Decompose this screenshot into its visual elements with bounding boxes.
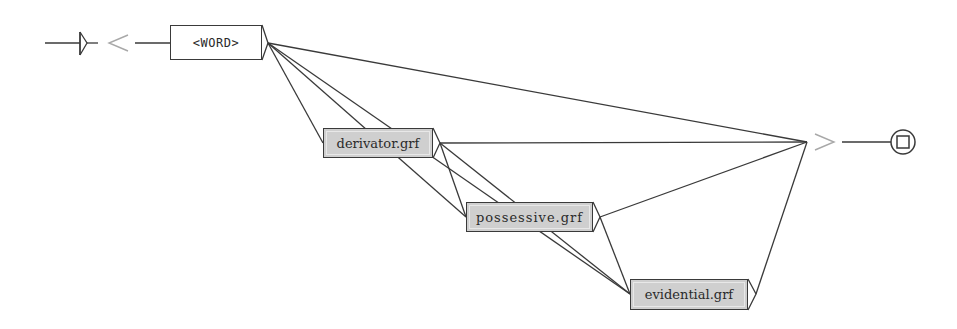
word-output-arrow-icon xyxy=(262,25,268,60)
initial-state-arrow-icon xyxy=(80,32,87,55)
final-state-square-icon xyxy=(897,136,909,148)
context-close-marker-icon xyxy=(815,134,834,150)
possessive-output-arrow-icon xyxy=(593,202,600,232)
node-possessive-label: possessive.grf xyxy=(476,210,583,225)
node-evidential-label: evidential.grf xyxy=(645,287,733,302)
node-word-label: <WORD> xyxy=(193,36,239,50)
edge-evidential-to-final[interactable] xyxy=(756,142,807,294)
final-state-circle-icon xyxy=(891,130,915,154)
edge-derivator-to-final[interactable] xyxy=(440,142,807,143)
node-word[interactable]: <WORD> xyxy=(170,25,262,60)
grammar-graph-canvas xyxy=(0,0,957,329)
evidential-output-arrow-icon xyxy=(748,279,756,310)
node-derivator-label: derivator.grf xyxy=(337,136,420,151)
initial-state[interactable] xyxy=(45,32,98,55)
derivator-output-arrow-icon xyxy=(433,128,440,158)
node-derivator-subgraph[interactable]: derivator.grf xyxy=(323,128,433,158)
node-evidential-subgraph[interactable]: evidential.grf xyxy=(630,279,748,310)
edges xyxy=(268,43,807,294)
final-state[interactable] xyxy=(891,130,915,154)
context-open-marker-icon xyxy=(109,35,128,51)
node-possessive-subgraph[interactable]: possessive.grf xyxy=(466,202,593,232)
edge-word-to-derivator[interactable] xyxy=(268,43,323,143)
edge-possessive-to-final[interactable] xyxy=(600,142,807,217)
